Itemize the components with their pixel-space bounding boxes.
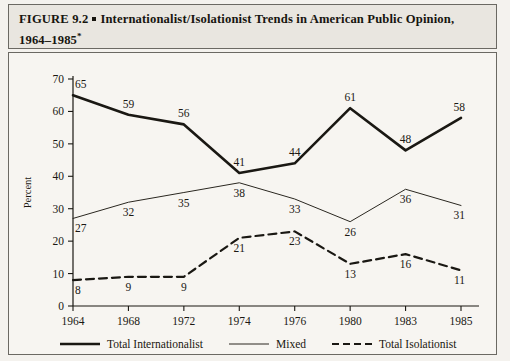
y-tick-label: 20	[53, 235, 65, 247]
figure-plot-box: 010203040506070Percent196419681972197419…	[8, 52, 497, 355]
data-point-label: 35	[178, 197, 190, 209]
data-point-label: 26	[344, 226, 356, 238]
data-point-label: 58	[454, 101, 466, 113]
data-point-label: 21	[234, 242, 246, 254]
legend-item-total-internationalist: Total Internationalist	[60, 338, 203, 350]
data-point-label: 32	[123, 206, 135, 218]
data-point-label: 31	[454, 209, 466, 221]
legend-label-total-isolationist: Total Isolationist	[379, 338, 456, 350]
x-tick-label: 1983	[394, 315, 417, 327]
x-tick-label: 1972	[172, 315, 195, 327]
figure-page: FIGURE 9.2Internationalist/Isolationist …	[0, 0, 510, 361]
data-point-label: 23	[289, 235, 301, 247]
data-point-label: 9	[126, 281, 132, 293]
y-tick-label: 40	[53, 170, 65, 182]
data-point-label: 13	[344, 268, 356, 280]
data-point-label: 44	[289, 146, 301, 158]
data-point-label: 48	[400, 133, 412, 145]
x-tick-label: 1964	[62, 315, 85, 327]
y-tick-label: 50	[53, 138, 65, 150]
figure-title-line2: 1964–1985	[19, 33, 77, 47]
x-tick-label: 1976	[283, 315, 306, 327]
thick-solid-line-swatch-icon	[60, 339, 100, 349]
series-line	[73, 231, 461, 280]
chart-legend: Total Internationalist Mixed Total Isola…	[60, 334, 460, 354]
figure-number: FIGURE 9.2	[19, 12, 88, 26]
figure-caption-box: FIGURE 9.2Internationalist/Isolationist …	[8, 4, 497, 49]
data-point-label: 36	[400, 193, 412, 205]
x-tick-label: 1985	[450, 315, 473, 327]
data-point-label: 59	[123, 98, 135, 110]
data-point-label: 41	[234, 156, 246, 168]
y-tick-label: 10	[53, 268, 65, 280]
data-point-label: 33	[289, 203, 301, 215]
data-point-label: 38	[234, 187, 246, 199]
y-tick-label: 70	[53, 73, 65, 85]
line-chart: 010203040506070Percent196419681972197419…	[9, 53, 496, 354]
data-point-label: 16	[400, 258, 412, 270]
figure-caption-text: FIGURE 9.2Internationalist/Isolationist …	[19, 11, 486, 48]
data-point-label: 61	[344, 91, 356, 103]
legend-label-mixed: Mixed	[276, 338, 306, 350]
x-tick-label: 1980	[339, 315, 362, 327]
dashed-line-swatch-icon	[332, 339, 372, 349]
footnote-marker: *	[77, 31, 82, 41]
y-axis-title: Percent	[22, 177, 33, 209]
figure-title-line1: Internationalist/Isolationist Trends in …	[100, 12, 454, 26]
y-tick-label: 60	[53, 105, 65, 117]
data-point-label: 56	[178, 107, 190, 119]
square-bullet-icon	[92, 17, 96, 21]
data-point-label: 11	[454, 274, 465, 286]
data-point-label: 27	[75, 222, 87, 234]
y-tick-label: 0	[58, 300, 64, 312]
legend-label-total-internationalist: Total Internationalist	[107, 338, 203, 350]
data-point-label: 8	[75, 284, 81, 296]
data-point-label: 9	[181, 281, 187, 293]
legend-item-mixed: Mixed	[229, 338, 306, 350]
x-tick-label: 1968	[117, 315, 140, 327]
y-tick-label: 30	[53, 203, 65, 215]
thin-solid-line-swatch-icon	[229, 339, 269, 349]
legend-item-total-isolationist: Total Isolationist	[332, 338, 456, 350]
x-tick-label: 1974	[228, 315, 251, 327]
data-point-label: 65	[75, 78, 87, 90]
